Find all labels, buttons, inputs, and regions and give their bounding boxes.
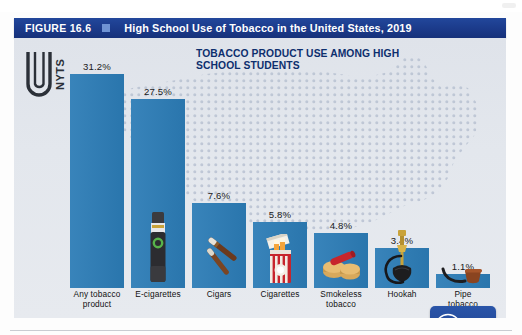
bar-column: 4.8% <box>314 56 368 288</box>
cigarette-pack-icon <box>263 234 297 288</box>
bar-any-tobacco-product[interactable] <box>70 74 124 288</box>
infographic-panel: NYTS TOBACCO PRODUCT USE AMONG HIGH SCHO… <box>14 38 506 318</box>
page-top-edge <box>0 0 522 12</box>
page-smudge <box>502 3 516 8</box>
bar-value-label: 7.6% <box>208 190 231 201</box>
bar-e-cigarettes[interactable] <box>131 99 185 288</box>
hookah-icon <box>379 230 425 292</box>
bar-column: 5.8% <box>253 56 307 288</box>
smokeless-tins-icon <box>320 248 362 286</box>
category-label-any-tobacco-product: Any tobacco product <box>64 290 130 309</box>
category-label-smokeless-tobacco: Smokeless tobacco <box>308 290 374 309</box>
figure-header-bar: FIGURE 16.6 High School Use of Tobacco i… <box>14 18 506 38</box>
bar-chart: 31.2% 27.5% <box>70 56 490 288</box>
bar-cigarettes[interactable] <box>253 222 307 288</box>
bar-column: 1.1% <box>436 56 490 288</box>
bar-hookah[interactable] <box>375 248 429 288</box>
cdc-logo: CDC <box>430 306 496 318</box>
bar-column: 31.2% <box>70 56 124 288</box>
bar-value-label: 5.8% <box>269 209 292 220</box>
cigars-icon <box>196 234 242 284</box>
figure-number: FIGURE 16.6 <box>25 22 91 34</box>
bar-value-label: 31.2% <box>83 61 111 72</box>
bar-pipe-tobacco[interactable] <box>436 274 490 288</box>
bar-column: 3.4% <box>375 56 429 288</box>
category-label-e-cigarettes: E-cigarettes <box>125 290 191 300</box>
page-bottom-rule <box>10 330 512 331</box>
figure-title: High School Use of Tobacco in the United… <box>124 22 411 34</box>
bar-smokeless-tobacco[interactable] <box>314 233 368 288</box>
bar-column: 7.6% <box>192 56 246 288</box>
category-label-cigarettes: Cigarettes <box>247 290 313 300</box>
bar-value-label: 27.5% <box>144 86 172 97</box>
vape-device-icon <box>145 206 171 288</box>
category-label-cigars: Cigars <box>186 290 252 300</box>
pipe-icon <box>441 265 485 289</box>
category-label-row: Any tobacco product E-cigarettes Cigars … <box>70 290 490 316</box>
bar-cigars[interactable] <box>192 203 246 288</box>
svg-text:NYTS: NYTS <box>54 59 66 90</box>
figure-page: FIGURE 16.6 High School Use of Tobacco i… <box>0 0 522 335</box>
bar-value-label: 4.8% <box>330 220 353 231</box>
bar-column: 27.5% <box>131 56 185 288</box>
header-square-icon <box>102 24 110 32</box>
